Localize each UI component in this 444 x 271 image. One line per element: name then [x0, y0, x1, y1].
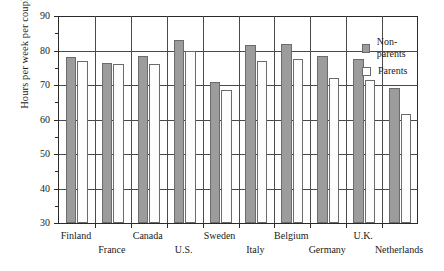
category-separator-8 — [346, 16, 347, 223]
non-parents-swatch — [362, 44, 370, 53]
legend-item-non-parents: Non-parents — [362, 36, 418, 60]
x-axis-label-u-k-: U.K. — [323, 230, 403, 241]
x-axis-label-netherlands: Netherlands — [359, 244, 439, 255]
bar-parents-belgium — [293, 59, 304, 223]
y-tick-45 — [55, 171, 59, 172]
bar-parents-canada — [149, 64, 160, 223]
legend-label-non-parents: Non-parents — [377, 36, 418, 60]
x-axis-label-finland: Finland — [36, 230, 116, 241]
y-axis-label-50: 50 — [30, 149, 50, 159]
x-axis-label-germany: Germany — [287, 244, 367, 255]
x-tick-9 — [382, 223, 383, 228]
plot-area: Non-parents Parents — [58, 16, 418, 224]
bar-non-parents-finland — [66, 57, 77, 223]
y-tick-65 — [55, 102, 59, 103]
y-axis-label-30: 30 — [30, 218, 50, 228]
x-axis-label-sweden: Sweden — [180, 230, 260, 241]
y-axis-label-80: 80 — [30, 46, 50, 56]
x-tick-6 — [274, 223, 275, 228]
y-tick-50 — [54, 154, 59, 155]
x-axis-label-france: France — [72, 244, 152, 255]
x-axis-label-u-s-: U.S. — [144, 244, 224, 255]
bar-parents-netherlands — [401, 114, 412, 223]
chart-figure: Hours per week per couple 30405060708090… — [0, 0, 444, 271]
x-axis-label-belgium: Belgium — [251, 230, 331, 241]
y-tick-35 — [55, 206, 59, 207]
x-tick-8 — [346, 223, 347, 228]
legend: Non-parents Parents — [362, 36, 418, 82]
bar-non-parents-u-s- — [174, 40, 185, 223]
y-tick-30 — [54, 223, 59, 224]
bar-non-parents-u-k- — [353, 59, 364, 223]
y-tick-75 — [55, 68, 59, 69]
y-tick-90 — [54, 16, 59, 17]
bar-non-parents-germany — [317, 56, 328, 223]
category-separator-1 — [95, 16, 96, 223]
x-axis-label-italy: Italy — [215, 244, 295, 255]
category-separator-7 — [310, 16, 311, 223]
y-axis-label-70: 70 — [30, 80, 50, 90]
bar-non-parents-france — [102, 63, 113, 223]
y-tick-60 — [54, 120, 59, 121]
x-tick-2 — [131, 223, 132, 228]
y-tick-85 — [55, 33, 59, 34]
bar-non-parents-italy — [245, 45, 256, 223]
y-tick-55 — [55, 137, 59, 138]
bar-parents-finland — [77, 61, 88, 223]
legend-item-parents: Parents — [362, 65, 418, 77]
bar-non-parents-canada — [138, 56, 149, 223]
category-separator-3 — [167, 16, 168, 223]
y-axis-label-40: 40 — [30, 184, 50, 194]
x-tick-3 — [167, 223, 168, 228]
bar-parents-u-s- — [185, 51, 196, 224]
bar-non-parents-belgium — [281, 44, 292, 223]
x-tick-1 — [95, 223, 96, 228]
bar-parents-sweden — [221, 90, 232, 223]
y-axis-label-60: 60 — [30, 115, 50, 125]
bar-non-parents-sweden — [210, 82, 221, 223]
y-tick-70 — [54, 85, 59, 86]
x-tick-7 — [310, 223, 311, 228]
bar-parents-u-k- — [365, 80, 376, 223]
y-tick-40 — [54, 189, 59, 190]
y-tick-80 — [54, 51, 59, 52]
category-separator-5 — [239, 16, 240, 223]
y-axis-label-90: 90 — [30, 11, 50, 21]
bar-parents-france — [113, 64, 124, 223]
legend-label-parents: Parents — [378, 65, 407, 77]
x-tick-4 — [203, 223, 204, 228]
x-tick-5 — [239, 223, 240, 228]
bar-parents-germany — [329, 78, 340, 223]
bar-parents-italy — [257, 61, 268, 223]
category-separator-4 — [203, 16, 204, 223]
category-separator-2 — [131, 16, 132, 223]
parents-swatch — [362, 67, 371, 76]
bar-non-parents-netherlands — [389, 88, 400, 223]
category-separator-6 — [274, 16, 275, 223]
x-axis-label-canada: Canada — [108, 230, 188, 241]
